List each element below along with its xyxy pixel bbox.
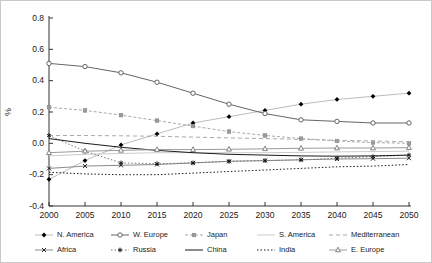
x-tick-label: 2015 [148, 210, 167, 220]
marker-circle [407, 121, 411, 125]
x-tick-label: 2010 [112, 210, 131, 220]
y-tick-label: 0.4 [32, 75, 44, 85]
y-tick-label: 0.8 [32, 13, 44, 23]
legend-item-mediterranean: Mediterranean [329, 231, 429, 239]
legend-label: Africa [57, 246, 76, 254]
legend-item-africa: Africa [35, 246, 111, 254]
legend-label: Japan [207, 231, 227, 239]
legend-label: Mediterranean [351, 231, 399, 239]
marker-circle [118, 232, 122, 236]
x-tick-label: 2040 [328, 210, 347, 220]
x-tick-label: 2020 [184, 210, 203, 220]
marker-square [191, 124, 195, 128]
marker-diamond [42, 232, 47, 237]
axes [49, 16, 411, 206]
marker-diamond [227, 114, 232, 119]
legend-item-russia: Russia [111, 246, 185, 254]
marker-triangle [336, 247, 341, 252]
marker-diamond [407, 91, 412, 96]
legend-label: S. America [279, 231, 315, 239]
legend-line-sample [185, 246, 203, 254]
marker-circle [227, 102, 231, 106]
marker-triangle [155, 147, 160, 152]
marker-circle [299, 118, 303, 122]
x-tick-label: 2005 [76, 210, 95, 220]
series-line [49, 136, 409, 142]
x-tick-label: 2035 [292, 210, 311, 220]
marker-triangle [227, 146, 232, 151]
y-tick-label: 0.6 [32, 44, 44, 54]
marker-diamond [155, 132, 160, 137]
marker-diamond [299, 102, 304, 107]
y-axis-label: % [3, 108, 13, 116]
marker-diamond [119, 143, 124, 148]
marker-triangle [335, 145, 340, 150]
legend-label: W. Europe [133, 231, 168, 239]
marker-square [83, 109, 87, 113]
marker-square [227, 130, 231, 134]
marker-square [192, 233, 196, 237]
marker-circle [119, 71, 123, 75]
marker-diamond [335, 97, 340, 102]
series-japan [47, 106, 411, 146]
marker-triangle [47, 150, 52, 155]
plot-area: 0.80.60.40.20.0-0.2-0.420002005201020152… [1, 1, 432, 227]
legend-label: N. America [57, 231, 94, 239]
legend-line-sample [185, 231, 203, 239]
line-chart-figure: 0.80.60.40.20.0-0.2-0.420002005201020152… [0, 0, 432, 263]
marker-circle [191, 91, 195, 95]
legend-line-sample [111, 231, 129, 239]
legend-line-sample [35, 246, 53, 254]
marker-diamond [47, 177, 52, 182]
marker-triangle [119, 148, 124, 153]
marker-triangle [83, 148, 88, 153]
marker-square [47, 106, 51, 110]
series-line [49, 107, 409, 143]
x-tick-label: 2025 [220, 210, 239, 220]
marker-triangle [371, 145, 376, 150]
legend-line-sample [329, 246, 347, 254]
marker-circle [335, 119, 339, 123]
series-s-america [49, 151, 409, 156]
x-tick-label: 2000 [40, 210, 59, 220]
marker-triangle [191, 147, 196, 152]
y-tick-label: 0.2 [32, 107, 44, 117]
x-tick-label: 2045 [364, 210, 383, 220]
marker-circle [371, 121, 375, 125]
marker-triangle [407, 145, 412, 150]
legend-label: China [207, 246, 227, 254]
y-tick-label: 0.0 [32, 138, 44, 148]
legend-label: Russia [133, 246, 156, 254]
marker-circle [263, 111, 267, 115]
marker-diamond [371, 94, 376, 99]
legend-line-sample [111, 246, 129, 254]
legend-line-sample [35, 231, 53, 239]
marker-triangle [299, 146, 304, 151]
marker-circle [47, 61, 51, 65]
legend-line-sample [329, 231, 347, 239]
chart-legend: N. AmericaW. EuropeJapanS. AmericaMedite… [35, 227, 429, 257]
marker-square [119, 113, 123, 117]
marker-triangle [263, 146, 268, 151]
legend-line-sample [257, 246, 275, 254]
y-tick-label: -0.2 [29, 169, 44, 179]
legend-item-s-america: S. America [257, 231, 329, 239]
marker-square [155, 119, 159, 123]
marker-square [263, 134, 267, 138]
x-tick-label: 2030 [256, 210, 275, 220]
legend-item-china: China [185, 246, 257, 254]
x-tick-label: 2050 [400, 210, 419, 220]
series-line [49, 151, 409, 156]
legend-item-n-america: N. America [35, 231, 111, 239]
marker-star [119, 161, 123, 166]
legend-line-sample [257, 231, 275, 239]
tick-labels: 0.80.60.40.20.0-0.2-0.420002005201020152… [29, 13, 418, 220]
series-line [49, 63, 409, 123]
marker-diamond [83, 158, 88, 163]
legend-item-w-europe: W. Europe [111, 231, 185, 239]
legend-item-e-europe: E. Europe [329, 246, 429, 254]
legend-label: India [279, 246, 295, 254]
marker-circle [155, 80, 159, 84]
series-mediterranean [49, 136, 409, 142]
legend-label: E. Europe [351, 246, 384, 254]
